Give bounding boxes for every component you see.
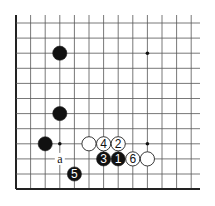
move-number-1: 1 (115, 152, 122, 166)
move-number-2: 2 (115, 137, 122, 151)
move-number-3: 3 (100, 152, 107, 166)
move-number-5: 5 (71, 167, 78, 181)
white-stone (140, 152, 154, 166)
black-stone (38, 137, 52, 151)
star-point (146, 51, 150, 55)
star-point (58, 142, 62, 146)
black-stone (53, 107, 67, 121)
go-board: a423165 (0, 0, 215, 206)
marker-label-a: a (57, 152, 63, 166)
white-stone (82, 137, 96, 151)
star-point (146, 142, 150, 146)
move-number-6: 6 (129, 152, 136, 166)
black-stone (53, 46, 67, 60)
move-number-4: 4 (100, 137, 107, 151)
